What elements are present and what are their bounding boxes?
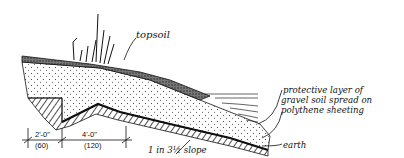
earth-label: earth — [283, 140, 306, 150]
dimension-1-imperial: 2'-0" — [35, 130, 50, 139]
slope-label: 1 in 3½ slope — [148, 145, 207, 155]
grass-icon — [73, 14, 114, 64]
protective-layer-label-1: protective layer of — [283, 85, 365, 95]
dimension-2-metric: (120) — [84, 141, 102, 150]
dimension-1-metric: (60) — [35, 141, 49, 150]
dimension-2-imperial: 4'-0" — [82, 130, 97, 139]
protective-layer-label-2: gravel soil spread on — [281, 95, 372, 105]
section-drawing: topsoil protective layer of gravel soil … — [0, 0, 404, 158]
topsoil-label: topsoil — [136, 29, 170, 40]
protective-layer-label-3: polythene sheeting — [281, 105, 365, 115]
